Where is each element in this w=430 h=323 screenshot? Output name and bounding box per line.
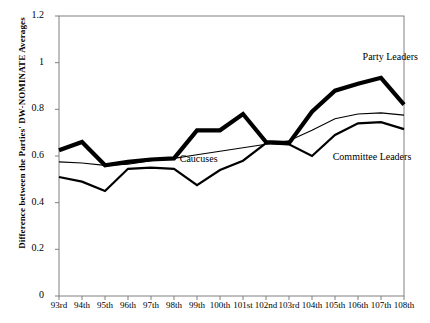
chart-container: Difference between the Parties' DW-NOMIN… bbox=[0, 0, 430, 323]
series-label-caucuses: Caucuses bbox=[180, 153, 218, 164]
series-label-committee-leaders: Committee Leaders bbox=[333, 151, 412, 162]
series-label-party-leaders: Party Leaders bbox=[363, 51, 418, 62]
